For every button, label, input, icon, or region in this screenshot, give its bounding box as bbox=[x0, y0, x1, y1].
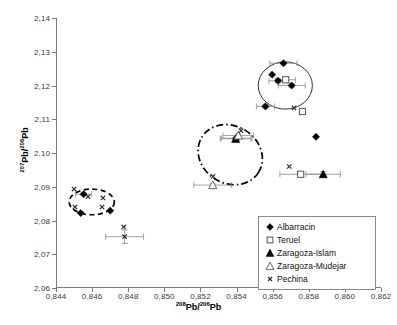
legend-label: Albarracin bbox=[277, 222, 315, 232]
x-tick-label: 0,844 bbox=[38, 292, 74, 301]
x-tick-label: 0,856 bbox=[255, 292, 291, 301]
x-axis-title-sup2: 206 bbox=[200, 301, 210, 307]
x-tick-label: 0,862 bbox=[363, 292, 397, 301]
x-tick-mark bbox=[164, 288, 165, 292]
y-tick-label: 2,14 bbox=[24, 14, 50, 23]
y-axis-title-end: Pb bbox=[20, 127, 30, 139]
x-tick-label: 0,858 bbox=[291, 292, 327, 301]
x-tick-label: 0,854 bbox=[219, 292, 255, 301]
x-axis-title-end: Pb bbox=[210, 302, 222, 312]
x-tick-label: 0,860 bbox=[327, 292, 363, 301]
legend-item-teruel[interactable]: Teruel bbox=[263, 233, 371, 246]
legend-marker-open-triangle-icon bbox=[263, 260, 277, 272]
marker-filled-diamond bbox=[267, 223, 274, 230]
y-tick-mark bbox=[52, 86, 56, 87]
legend-item-albarracin[interactable]: Albarracin bbox=[263, 220, 371, 233]
y-tick-mark bbox=[52, 187, 56, 188]
x-tick-mark bbox=[128, 288, 129, 292]
legend-label: Zaragoza-Mudejar bbox=[277, 261, 346, 271]
marker-cross-x bbox=[268, 276, 272, 280]
legend-label: Teruel bbox=[277, 235, 300, 245]
x-tick-label: 0,850 bbox=[146, 292, 182, 301]
y-axis-title-sup1: 207 bbox=[19, 163, 25, 173]
y-axis-title: 207Pb/206Pb bbox=[20, 127, 30, 173]
lead-isotope-scatter-chart: 2,062,072,082,092,102,112,122,132,14 0,8… bbox=[0, 0, 397, 325]
y-tick-label: 2,08 bbox=[24, 216, 50, 225]
y-tick-mark bbox=[52, 153, 56, 154]
y-axis-title-mid: Pb/ bbox=[20, 149, 30, 163]
y-tick-label: 2,09 bbox=[24, 182, 50, 191]
y-tick-mark bbox=[52, 221, 56, 222]
y-tick-label: 2,07 bbox=[24, 250, 50, 259]
y-tick-mark bbox=[52, 254, 56, 255]
legend-label: Pechina bbox=[277, 274, 308, 284]
x-tick-mark bbox=[92, 288, 93, 292]
legend-item-zaragoza-islam[interactable]: Zaragoza-Islam bbox=[263, 246, 371, 259]
y-tick-mark bbox=[52, 18, 56, 19]
marker-filled-triangle bbox=[266, 249, 274, 256]
y-axis-title-sup2: 206 bbox=[19, 139, 25, 149]
legend-marker-filled-triangle-icon bbox=[263, 247, 277, 259]
marker-open-triangle bbox=[266, 262, 274, 269]
x-axis-title-sup1: 208 bbox=[176, 301, 186, 307]
legend-marker-open-square-icon bbox=[263, 234, 277, 246]
legend: AlbarracinTeruelZaragoza-IslamZaragoza-M… bbox=[258, 216, 376, 290]
legend-item-pechina[interactable]: Pechina bbox=[263, 272, 371, 285]
y-tick-mark bbox=[52, 52, 56, 53]
x-tick-label: 0,846 bbox=[74, 292, 110, 301]
x-axis-title: 208Pb/206Pb bbox=[0, 302, 397, 312]
x-tick-mark bbox=[237, 288, 238, 292]
x-tick-mark bbox=[56, 288, 57, 292]
legend-item-zaragoza-mudejar[interactable]: Zaragoza-Mudejar bbox=[263, 259, 371, 272]
marker-open-square bbox=[267, 237, 273, 243]
x-tick-mark bbox=[381, 288, 382, 292]
y-tick-label: 2,12 bbox=[24, 81, 50, 90]
legend-marker-cross-x-icon bbox=[263, 273, 277, 285]
y-tick-mark bbox=[52, 119, 56, 120]
x-tick-label: 0,848 bbox=[110, 292, 146, 301]
legend-label: Zaragoza-Islam bbox=[277, 248, 336, 258]
x-tick-label: 0,852 bbox=[182, 292, 218, 301]
x-axis-title-mid: Pb/ bbox=[186, 302, 200, 312]
x-tick-mark bbox=[200, 288, 201, 292]
legend-marker-filled-diamond-icon bbox=[263, 221, 277, 233]
y-tick-label: 2,13 bbox=[24, 47, 50, 56]
y-tick-label: 2,11 bbox=[24, 115, 50, 124]
